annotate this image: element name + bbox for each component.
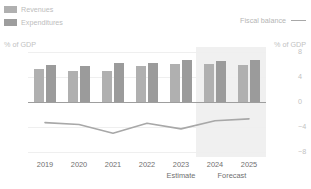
fiscal-balance-line-icon — [291, 20, 306, 22]
x-label-2023: 2023 — [164, 160, 198, 169]
right-tick-3: −4 — [298, 122, 311, 131]
x-label-2021: 2021 — [96, 160, 130, 169]
estimate-label: Estimate — [161, 171, 201, 180]
revenues-swatch-icon — [4, 6, 17, 13]
fiscal-balance-line — [28, 52, 266, 152]
legend-item-fiscal-balance: Fiscal balance — [240, 16, 306, 25]
legend-label-fiscal-balance: Fiscal balance — [240, 16, 286, 25]
legend-item-expenditures: Expenditures — [4, 17, 63, 28]
expenditures-swatch-icon — [4, 19, 17, 26]
x-label-2020: 2020 — [62, 160, 96, 169]
legend-series: Revenues Expenditures — [4, 4, 63, 30]
x-label-2019: 2019 — [28, 160, 62, 169]
right-tick-0: 8 — [298, 47, 311, 56]
right-tick-4: −8 — [298, 147, 311, 156]
x-label-2024: 2024 — [198, 160, 232, 169]
legend-item-revenues: Revenues — [4, 4, 63, 15]
gridline — [28, 152, 266, 153]
x-label-2022: 2022 — [130, 160, 164, 169]
legend-label-revenues: Revenues — [21, 5, 53, 14]
plot-area: 40200−20−40 840−4−8 — [28, 52, 266, 152]
right-tick-1: 4 — [298, 72, 311, 81]
legend-label-expenditures: Expenditures — [21, 18, 63, 27]
left-axis-title: % of GDP — [4, 40, 36, 49]
right-tick-2: 0 — [298, 97, 311, 106]
forecast-label: Forecast — [212, 171, 252, 180]
x-label-2025: 2025 — [232, 160, 266, 169]
chart-root: Revenues Expenditures Fiscal balance % o… — [0, 0, 311, 189]
